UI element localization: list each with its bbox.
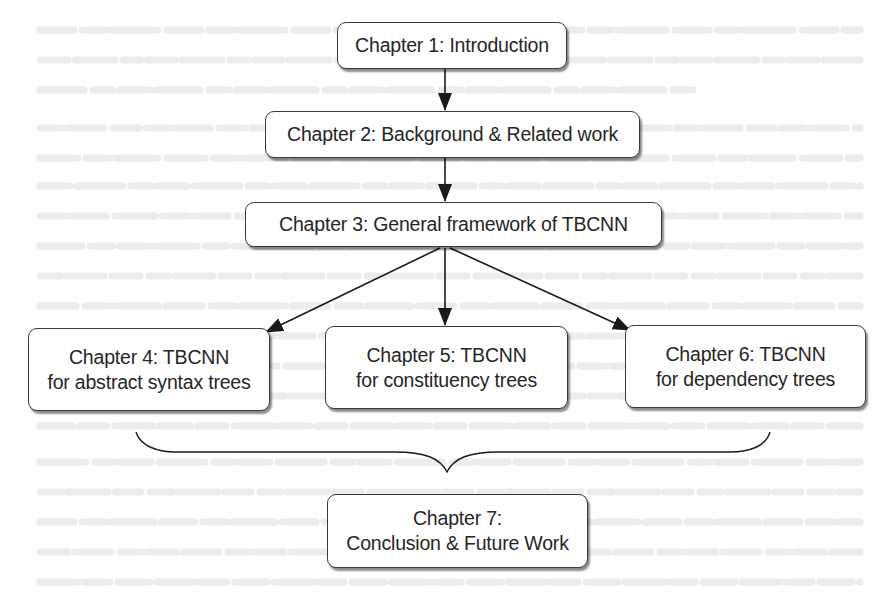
chapter-1-label: Chapter 1: Introduction	[355, 33, 549, 58]
chapter-1-box: Chapter 1: Introduction	[337, 22, 567, 69]
curly-brace-to-ch7	[136, 432, 770, 472]
arrow-ch3-to-ch4	[266, 248, 440, 332]
chapter-4-box: Chapter 4: TBCNN for abstract syntax tre…	[28, 328, 270, 411]
chapter-3-label: Chapter 3: General framework of TBCNN	[279, 212, 628, 237]
chapter-4-subtitle: for abstract syntax trees	[47, 370, 250, 395]
chapter-2-label: Chapter 2: Background & Related work	[287, 122, 618, 147]
chapter-6-subtitle: for dependency trees	[656, 367, 835, 392]
arrow-ch3-to-ch6	[450, 248, 630, 330]
chapter-7-title: Chapter 7:	[413, 506, 502, 531]
chapter-5-box: Chapter 5: TBCNN for constituency trees	[325, 326, 568, 409]
chapter-7-box: Chapter 7: Conclusion & Future Work	[327, 494, 588, 568]
chapter-7-subtitle: Conclusion & Future Work	[346, 531, 568, 556]
chapter-4-title: Chapter 4: TBCNN	[69, 345, 229, 370]
chapter-5-title: Chapter 5: TBCNN	[366, 343, 526, 368]
chapter-6-title: Chapter 6: TBCNN	[665, 342, 825, 367]
chapter-2-box: Chapter 2: Background & Related work	[265, 111, 640, 158]
chapter-3-box: Chapter 3: General framework of TBCNN	[245, 202, 662, 247]
chapter-6-box: Chapter 6: TBCNN for dependency trees	[625, 325, 866, 408]
chapter-5-subtitle: for constituency trees	[356, 368, 537, 393]
